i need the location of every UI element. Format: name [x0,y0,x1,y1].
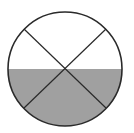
circle-fraction-diagram [0,0,134,133]
shaded-lower-half [0,69,134,133]
